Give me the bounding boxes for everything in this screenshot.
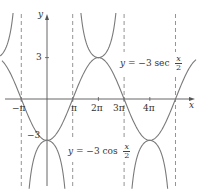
- sec-eq-den: 2: [176, 64, 181, 72]
- x-tick-label-pi: π: [71, 103, 77, 113]
- sec-curve: [0, 13, 13, 56]
- sec-eq-mid: = −3 sec: [125, 58, 172, 68]
- sec-equation-label: y = −3 sec x 2: [118, 52, 184, 74]
- cos-eq-fraction: x 2: [123, 143, 130, 160]
- cos-eq-mid: = −3 cos: [73, 146, 120, 156]
- sec-curve: [81, 13, 116, 58]
- y-tick-label-neg3: −3: [27, 130, 40, 140]
- x-tick-label-2pi: 2π: [91, 103, 103, 113]
- y-axis-arrow-icon: [45, 14, 49, 20]
- x-tick-label-4pi: 4π: [143, 103, 155, 113]
- x-tick-label-neg-pi: −π: [12, 103, 25, 113]
- y-tick-label-3: 3: [36, 52, 42, 62]
- graph-canvas: [0, 0, 198, 191]
- x-axis-label: x: [189, 100, 194, 110]
- x-tick-label-3pi: 3π: [113, 103, 125, 113]
- y-axis-label: y: [38, 9, 43, 19]
- cos-equation-label: y = −3 cos x 2: [66, 140, 132, 162]
- sec-eq-fraction: x 2: [175, 55, 182, 72]
- sec-curve: [132, 140, 168, 188]
- cos-eq-den: 2: [124, 152, 129, 160]
